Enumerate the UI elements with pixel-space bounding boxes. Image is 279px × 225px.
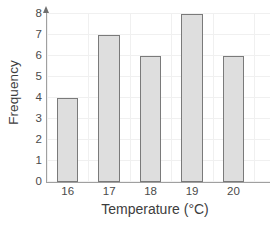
y-tick-label: 5 bbox=[26, 71, 42, 83]
y-tick-label: 4 bbox=[26, 92, 42, 104]
y-tick-label: 0 bbox=[26, 176, 42, 188]
x-tick-label: 17 bbox=[94, 185, 124, 198]
x-axis-title-text: Temperature (°C) bbox=[101, 201, 209, 217]
x-tick-label: 18 bbox=[136, 185, 166, 198]
y-tick-label: 8 bbox=[26, 8, 42, 20]
x-axis-title: Temperature (°C) bbox=[40, 201, 270, 217]
bar-chart-figure: Frequency 012345678 1617181920 Temperatu… bbox=[0, 0, 279, 225]
y-axis-tick-labels: 012345678 bbox=[26, 0, 44, 225]
y-axis-line bbox=[46, 12, 47, 183]
bar-16 bbox=[57, 98, 79, 182]
y-tick-label: 6 bbox=[26, 50, 42, 62]
y-axis-arrow-icon bbox=[43, 6, 49, 13]
bar-20 bbox=[223, 56, 245, 182]
y-tick-label: 1 bbox=[26, 155, 42, 167]
x-tick-label: 19 bbox=[177, 185, 207, 198]
y-tick-label: 3 bbox=[26, 113, 42, 125]
bar-17 bbox=[98, 35, 120, 182]
bar-18 bbox=[140, 56, 162, 182]
y-axis-title-text: Frequency bbox=[6, 60, 21, 125]
y-axis-title: Frequency bbox=[0, 0, 26, 185]
x-axis-line bbox=[46, 182, 270, 183]
bars-layer bbox=[47, 14, 270, 182]
bar-19 bbox=[181, 14, 203, 182]
plot-area bbox=[47, 14, 270, 182]
x-tick-label: 16 bbox=[53, 185, 83, 198]
x-tick-label: 20 bbox=[219, 185, 249, 198]
y-tick-label: 7 bbox=[26, 29, 42, 41]
y-tick-label: 2 bbox=[26, 134, 42, 146]
x-axis-tick-labels: 1617181920 bbox=[47, 185, 270, 201]
